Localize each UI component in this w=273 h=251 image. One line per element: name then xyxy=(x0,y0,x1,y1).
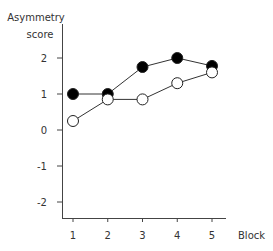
data-point-open xyxy=(137,94,148,105)
y-axis-label-line-2: score xyxy=(27,29,54,40)
data-point-open xyxy=(102,94,113,105)
x-axis-ticks: 12345 xyxy=(70,218,215,241)
data-point-filled xyxy=(172,53,183,64)
y-axis-label: Asymmetry score xyxy=(7,12,65,40)
x-tick-label: 3 xyxy=(139,230,145,241)
x-tick-label: 2 xyxy=(105,230,111,241)
data-point-filled xyxy=(68,89,79,100)
x-tick-label: 4 xyxy=(174,230,180,241)
data-point-open xyxy=(172,78,183,89)
data-point-open xyxy=(68,116,79,127)
data-point-filled xyxy=(137,62,148,73)
chart-canvas: Asymmetry score 210-1-2 12345 Block xyxy=(0,0,273,251)
x-tick-label: 5 xyxy=(209,230,215,241)
x-tick-label: 1 xyxy=(70,230,76,241)
y-axis-label-line-1: Asymmetry xyxy=(7,12,65,23)
y-axis-ticks: 210-1-2 xyxy=(37,53,62,208)
y-tick-label: 1 xyxy=(41,89,47,100)
y-tick-label: -2 xyxy=(37,197,47,208)
data-series xyxy=(68,53,218,127)
y-tick-label: 0 xyxy=(41,125,47,136)
y-tick-label: -1 xyxy=(37,161,47,172)
data-point-open xyxy=(207,67,218,78)
asymmetry-score-chart: Asymmetry score 210-1-2 12345 Block xyxy=(0,0,273,251)
y-tick-label: 2 xyxy=(41,53,47,64)
x-axis-label: Block xyxy=(238,230,265,241)
